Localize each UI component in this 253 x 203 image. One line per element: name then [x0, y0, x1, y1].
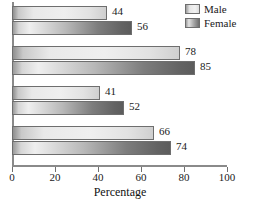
bar-female-3[interactable]: [12, 101, 124, 115]
legend-item-male[interactable]: Male: [185, 2, 251, 15]
x-axis-line: [12, 165, 227, 167]
x-tick-label-40: 40: [83, 171, 113, 184]
bar-chart: 44 56 78 85 41: [0, 0, 253, 203]
bar-value-male-2: 78: [185, 44, 196, 58]
bar-value-female-4: 74: [176, 139, 187, 153]
bar-value-male-1: 44: [112, 4, 123, 18]
bar-male-1[interactable]: [12, 6, 107, 20]
x-tick-label-80: 80: [169, 171, 199, 184]
legend-label-female: Female: [204, 17, 236, 29]
bar-male-2[interactable]: [12, 46, 180, 60]
bar-male-3[interactable]: [12, 86, 100, 100]
legend-swatch-female-icon: [185, 18, 200, 28]
bar-female-2[interactable]: [12, 61, 195, 75]
x-tick-label-100: 100: [212, 171, 242, 184]
bar-value-female-3: 52: [129, 99, 140, 113]
bar-value-female-1: 56: [137, 19, 148, 33]
bar-female-1[interactable]: [12, 21, 132, 35]
x-tick-label-20: 20: [40, 171, 70, 184]
x-axis-title: Percentage: [0, 185, 240, 200]
legend-label-male: Male: [204, 3, 227, 15]
bar-male-4[interactable]: [12, 126, 154, 140]
bar-value-female-2: 85: [200, 59, 211, 73]
legend-swatch-male-icon: [185, 4, 200, 14]
bar-value-male-3: 41: [105, 84, 116, 98]
x-tick-label-60: 60: [126, 171, 156, 184]
bar-female-4[interactable]: [12, 141, 171, 155]
legend-item-female[interactable]: Female: [185, 16, 251, 29]
bar-value-male-4: 66: [159, 124, 170, 138]
legend: Male Female: [185, 2, 251, 30]
x-tick-label-0: 0: [0, 171, 27, 184]
